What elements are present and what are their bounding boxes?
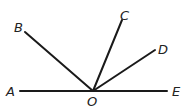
angle-diagram: A B C D E O	[0, 0, 189, 108]
label-B: B	[14, 20, 23, 35]
label-O: O	[87, 94, 97, 108]
label-E: E	[172, 84, 181, 99]
label-C: C	[120, 8, 130, 23]
label-A: A	[5, 84, 15, 99]
ray-OB	[25, 32, 93, 91]
label-D: D	[158, 42, 168, 57]
